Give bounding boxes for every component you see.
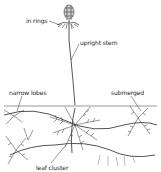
plant-illustration: [0, 0, 161, 172]
flower-spike: [57, 5, 79, 29]
label-narrow-lobes: narrow lobes: [9, 89, 46, 96]
label-upright-stem: upright stem: [80, 39, 117, 46]
upright-stem: [69, 20, 75, 105]
label-submerged: submerged: [111, 89, 144, 96]
roots: [98, 155, 135, 166]
label-in-rings: in rings: [26, 17, 47, 24]
label-leaf-cluster: leaf cluster: [36, 164, 68, 171]
submerged-stems: [4, 108, 157, 157]
leaf-clusters: [4, 106, 150, 164]
